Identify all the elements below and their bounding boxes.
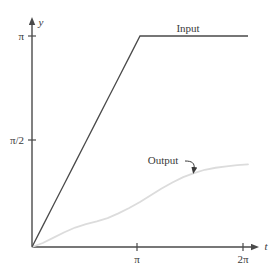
series-group (32, 36, 248, 247)
tick-labels: π π/2 π 2π (10, 30, 249, 265)
axis-names: y t (38, 16, 269, 252)
x-tick-label-2pi: 2π (237, 253, 249, 265)
y-tick-label-pi-over-2: π/2 (10, 134, 24, 146)
plot-canvas: π π/2 π 2π y t Input Output (0, 0, 275, 276)
output-label: Output (148, 154, 179, 166)
series-output-curve (32, 164, 248, 247)
y-tick-label-pi: π (18, 30, 24, 42)
annotation-output: Output (148, 154, 194, 169)
x-tick-label-pi: π (134, 253, 140, 265)
output-leader-line (185, 161, 194, 169)
series-input-curve (32, 36, 248, 247)
input-label: Input (176, 22, 199, 34)
tick-marks (28, 36, 243, 251)
annotation-input: Input (176, 22, 199, 34)
y-axis-label: y (38, 16, 44, 28)
axis-lines (32, 24, 252, 247)
x-axis-label: t (264, 240, 268, 252)
figure-container: π π/2 π 2π y t Input Output (0, 0, 275, 276)
